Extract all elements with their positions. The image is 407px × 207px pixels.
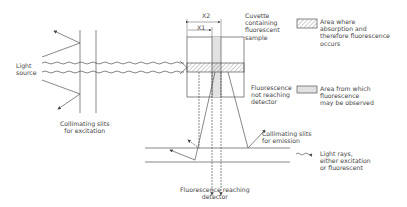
label-cuvette: Cuvette containing fluorescent sample (245, 12, 280, 41)
label-x1: X1 (197, 24, 205, 31)
legend-light-rays-text: Light rays, either excitation or fluores… (320, 150, 371, 172)
legend-shaded-swatch (297, 86, 317, 93)
label-slits-excitation: Collimating slits for excitation (60, 120, 109, 134)
legend-hatched-swatch (297, 19, 317, 28)
label-light-source: Light source (16, 62, 37, 76)
legend-shaded-text: Area from which fluorescence may be obse… (320, 85, 374, 107)
absorption-region (187, 63, 244, 72)
label-x2: X2 (202, 12, 210, 19)
legend-wavy-arrow (296, 153, 312, 155)
label-fluor-reaching: Fluorescence reaching detector (180, 186, 250, 200)
label-slits-emission: Collimating slits for emission (262, 130, 311, 144)
legend-hatched-text: Area where absorption and therefore fluo… (320, 18, 390, 47)
label-fluor-not-reaching: Fluorescence not reaching detector (251, 84, 292, 106)
